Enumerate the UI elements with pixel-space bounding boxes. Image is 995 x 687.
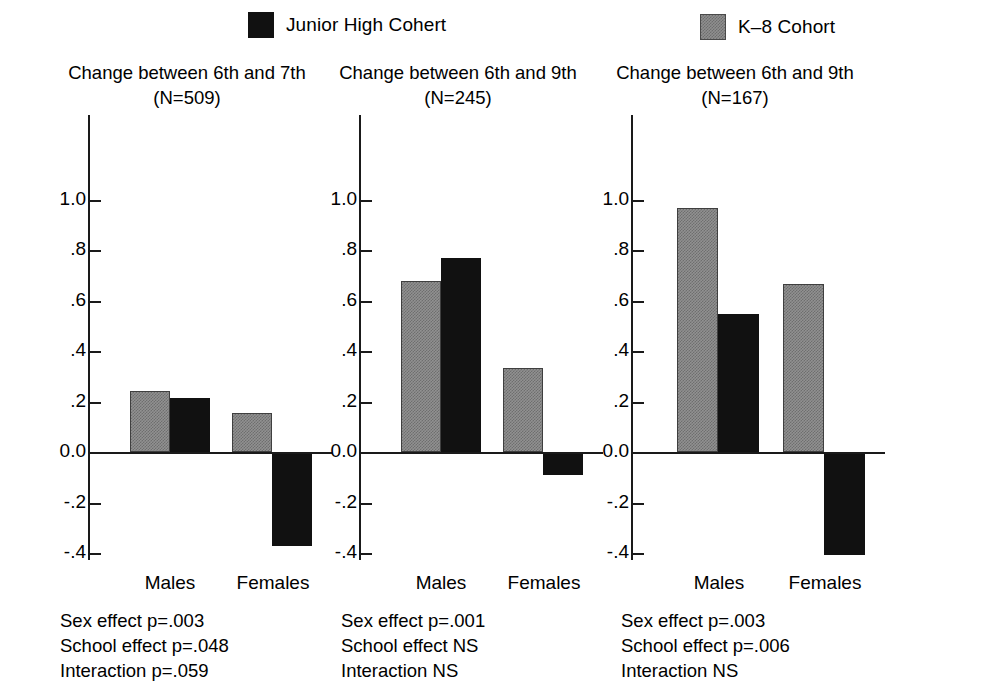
panel-1-bar-males-k8: [130, 391, 170, 452]
panel-2-ytick-1p0: 1.0: [313, 200, 373, 202]
panel-1-note-sex-effect: Sex effect p=.003: [60, 608, 229, 633]
panel-2-title-line1: Change between 6th and 9th: [339, 62, 577, 83]
chart-panel-3: Change between 6th and 9th (N=167) 1.0 .…: [585, 60, 885, 680]
panel-1-ytick-0p8: .8: [42, 250, 102, 252]
panel-3-y-axis-line: [631, 115, 633, 560]
panel-1-ytick-0p2: .2: [42, 402, 102, 404]
panel-3-x-categories: Males Females: [631, 572, 885, 598]
panel-1-bar-males-jh: [170, 398, 210, 452]
legend-item-k8: K–8 Cohort: [700, 14, 835, 40]
panel-3-note-interaction: Interaction NS: [621, 658, 790, 683]
panel-2-bar-females-jh: [543, 454, 583, 475]
panel-2-ytick-0p2: .2: [313, 402, 373, 404]
panel-3-bar-females-jh: [824, 454, 865, 555]
panel-1-ytick-n0p2: -.2: [42, 503, 102, 505]
panel-2-bar-males-k8: [401, 281, 441, 452]
panel-1-ytick-0p6: .6: [42, 301, 102, 303]
panel-2-note-interaction: Interaction NS: [341, 658, 485, 683]
panel-2-bar-females-k8: [503, 368, 543, 452]
panel-3-note-sex-effect: Sex effect p=.003: [621, 608, 790, 633]
panel-3-notes: Sex effect p=.003 School effect p=.006 I…: [621, 608, 790, 683]
panel-2-note-school-effect: School effect NS: [341, 633, 485, 658]
panel-2-notes: Sex effect p=.001 School effect NS Inter…: [341, 608, 485, 683]
panel-3-bar-females-k8: [783, 284, 824, 452]
legend-label-junior-high: Junior High Cohert: [286, 14, 446, 36]
panel-2-ytick-n0p4: -.4: [313, 553, 373, 555]
panel-1-title-line2: (N=509): [42, 85, 332, 110]
legend-swatch-black-icon: [248, 12, 274, 38]
panel-1-note-school-effect: School effect p=.048: [60, 633, 229, 658]
panel-1-title-line1: Change between 6th and 7th: [68, 62, 306, 83]
panel-2-ytick-n0p2: -.2: [313, 503, 373, 505]
panel-1-xcat-males: Males: [145, 572, 196, 594]
panel-1-ytick-0p4: .4: [42, 351, 102, 353]
panel-3-title-line2: (N=167): [585, 85, 885, 110]
panel-3-ytick-n0p2: -.2: [585, 503, 645, 505]
panel-1-xcat-females: Females: [237, 572, 310, 594]
panel-2-xcat-males: Males: [416, 572, 467, 594]
panel-3-ytick-1p0: 1.0: [585, 200, 645, 202]
panel-3-plot-area: 1.0 .8 .6 .4 .2 0.0 -.2 -.4: [585, 115, 885, 560]
panel-3-note-school-effect: School effect p=.006: [621, 633, 790, 658]
panel-1-x-categories: Males Females: [88, 572, 332, 598]
panel-3-ytick-n0p4: -.4: [585, 553, 645, 555]
panel-1-notes: Sex effect p=.003 School effect p=.048 I…: [60, 608, 229, 683]
panel-1-y-axis-line: [88, 115, 90, 560]
panel-3-title: Change between 6th and 9th (N=167): [585, 60, 885, 110]
panel-3-bar-males-k8: [677, 208, 718, 452]
panel-1-bar-females-k8: [232, 413, 272, 452]
panel-2-title: Change between 6th and 9th (N=245): [313, 60, 603, 110]
panel-2-ytick-0p4: .4: [313, 351, 373, 353]
panel-3-ytick-0p2: .2: [585, 402, 645, 404]
legend-item-junior-high: Junior High Cohert: [248, 12, 446, 38]
panel-3-xcat-females: Females: [789, 572, 862, 594]
panel-2-ytick-0p6: .6: [313, 301, 373, 303]
panel-1-ytick-1p0: 1.0: [42, 200, 102, 202]
panel-2-bar-males-jh: [441, 258, 481, 452]
panel-3-title-line1: Change between 6th and 9th: [616, 62, 854, 83]
legend-swatch-gray-icon: [700, 14, 726, 40]
panel-3-ytick-0p4: .4: [585, 351, 645, 353]
panel-1-title: Change between 6th and 7th (N=509): [42, 60, 332, 110]
chart-legend: Junior High Cohert K–8 Cohort: [0, 0, 995, 56]
panel-2-title-line2: (N=245): [313, 85, 603, 110]
panel-3-ytick-0p8: .8: [585, 250, 645, 252]
chart-panel-2: Change between 6th and 9th (N=245) 1.0 .…: [313, 60, 603, 680]
panel-1-bar-females-jh: [272, 454, 312, 546]
panel-3-xcat-males: Males: [694, 572, 745, 594]
chart-panel-1: Change between 6th and 7th (N=509) 1.0 .…: [42, 60, 332, 680]
panel-2-plot-area: 1.0 .8 .6 .4 .2 0.0 -.2 -.4: [313, 115, 603, 560]
panel-2-note-sex-effect: Sex effect p=.001: [341, 608, 485, 633]
panel-1-plot-area: 1.0 .8 .6 .4 .2 0.0 -.2 -.4: [42, 115, 332, 560]
panel-2-xcat-females: Females: [508, 572, 581, 594]
panel-2-x-categories: Males Females: [359, 572, 603, 598]
panel-1-note-interaction: Interaction p=.059: [60, 658, 229, 683]
panel-2-y-axis-line: [359, 115, 361, 560]
legend-label-k8: K–8 Cohort: [738, 16, 835, 38]
panel-2-ytick-0p8: .8: [313, 250, 373, 252]
panel-3-ytick-0p6: .6: [585, 301, 645, 303]
panel-3-bar-males-jh: [718, 314, 759, 452]
panel-1-ytick-n0p4: -.4: [42, 553, 102, 555]
